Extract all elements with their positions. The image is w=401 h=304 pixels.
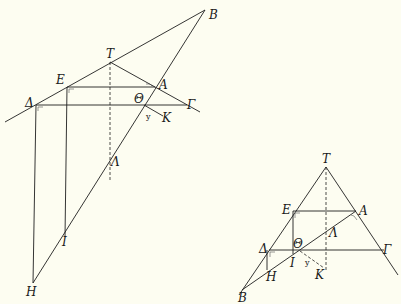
label-delta: Δ (24, 96, 34, 110)
label-b: B (208, 8, 218, 22)
label-a: A (358, 204, 368, 218)
label-y: y (304, 258, 310, 267)
left-figure: B T E A Δ Θ Γ y K Λ I H (5, 8, 218, 299)
label-a: A (158, 78, 168, 92)
line-e-i (65, 87, 67, 237)
right-angle-e (69, 89, 74, 93)
diagram-svg: B T E A Δ Θ Γ y K Λ I H T E (0, 0, 401, 304)
geometry-diagram: B T E A Δ Θ Γ y K Λ I H T E (0, 0, 401, 304)
label-gamma: Γ (186, 98, 196, 112)
label-lambda: Λ (110, 155, 120, 169)
right-figure: T E A Λ Δ Θ Γ I y K H B (237, 152, 398, 304)
label-t: T (106, 47, 115, 61)
line-b-h (33, 10, 205, 283)
label-k: K (314, 268, 325, 282)
label-h: H (265, 270, 277, 284)
dashed-theta-k (300, 251, 324, 268)
label-k: K (161, 111, 172, 125)
label-e: E (281, 203, 291, 217)
label-b: B (237, 291, 247, 304)
right-angle-delta (38, 107, 43, 111)
label-theta: Θ (134, 92, 144, 106)
right-angle-e (295, 213, 300, 218)
label-gamma: Γ (382, 243, 392, 257)
label-t: T (322, 152, 331, 166)
label-lambda: Λ (328, 226, 338, 240)
right-angle-a (146, 84, 152, 86)
label-e: E (55, 73, 65, 87)
label-y: y (145, 112, 151, 121)
label-h: H (25, 285, 37, 299)
line-t-gamma (326, 167, 398, 275)
right-angle-delta (270, 252, 275, 257)
label-delta: Δ (258, 242, 268, 256)
right-angle-a (351, 215, 357, 220)
label-i: I (289, 256, 295, 270)
label-i: I (61, 235, 67, 249)
line-delta-h (33, 105, 36, 283)
label-theta: Θ (293, 237, 303, 251)
line-t-b (239, 167, 326, 295)
